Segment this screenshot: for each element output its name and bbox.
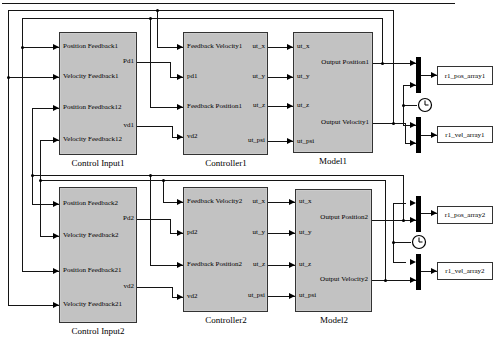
wire[interactable] bbox=[22, 18, 382, 19]
junction-dot bbox=[384, 279, 387, 282]
junction-dot bbox=[149, 174, 152, 177]
arrowhead-icon bbox=[53, 137, 59, 143]
sink-r1-pos-array2[interactable]: r1_pos_array2 bbox=[437, 206, 493, 224]
junction-dot bbox=[31, 174, 34, 177]
wire[interactable] bbox=[373, 123, 405, 124]
arrowhead-icon bbox=[177, 199, 183, 205]
port-label: ut_z bbox=[297, 102, 309, 109]
port-label: vd2 bbox=[187, 133, 198, 140]
junction-dot bbox=[402, 219, 405, 222]
port-label: ut_y bbox=[297, 73, 309, 80]
wire[interactable] bbox=[137, 126, 172, 127]
block-name-control-input2: Control Input2 bbox=[48, 327, 148, 336]
junction-dot bbox=[7, 76, 10, 79]
wire[interactable] bbox=[172, 126, 173, 137]
arrowhead-icon bbox=[53, 268, 59, 274]
arrowhead-icon bbox=[289, 293, 295, 299]
clock-icon[interactable] bbox=[411, 234, 427, 250]
wire[interactable] bbox=[393, 203, 406, 204]
arrowhead-icon bbox=[53, 302, 59, 308]
sink-label: r1_pos_array1 bbox=[445, 72, 485, 80]
clock-icon[interactable] bbox=[417, 97, 433, 113]
port-label: pd2 bbox=[187, 229, 198, 236]
arrowhead-icon bbox=[177, 262, 183, 268]
arrowhead-icon bbox=[53, 74, 59, 80]
wire[interactable] bbox=[32, 175, 403, 176]
port-label: ut_x bbox=[299, 198, 311, 205]
wire[interactable] bbox=[137, 219, 170, 220]
sink-label: r1_vel_array1 bbox=[445, 131, 484, 139]
arrowhead-icon bbox=[410, 140, 416, 146]
wire[interactable] bbox=[8, 305, 59, 306]
wire[interactable] bbox=[8, 10, 9, 305]
wire[interactable] bbox=[40, 180, 385, 181]
wire[interactable] bbox=[393, 10, 394, 123]
arrowhead-icon bbox=[287, 44, 293, 50]
sink-r1-vel-array1[interactable]: r1_vel_array1 bbox=[437, 126, 493, 143]
sink-r1-vel-array2[interactable]: r1_vel_array2 bbox=[437, 262, 493, 280]
wire[interactable] bbox=[403, 175, 404, 220]
wire[interactable] bbox=[157, 10, 158, 47]
wire[interactable] bbox=[137, 62, 170, 63]
sink-label: r1_vel_array2 bbox=[445, 267, 484, 275]
port-label: ut_z bbox=[299, 261, 311, 268]
simulink-diagram-canvas: Control Input1 Controller1 Model1 Contro… bbox=[0, 0, 501, 338]
wire[interactable] bbox=[32, 108, 33, 204]
wire[interactable] bbox=[382, 18, 383, 63]
arrowhead-icon bbox=[410, 200, 416, 206]
wire[interactable] bbox=[385, 180, 386, 280]
wire[interactable] bbox=[40, 140, 41, 236]
arrowhead-icon bbox=[53, 233, 59, 239]
arrowhead-icon bbox=[289, 230, 295, 236]
arrowhead-icon bbox=[177, 74, 183, 80]
wire[interactable] bbox=[163, 180, 164, 202]
wire[interactable] bbox=[170, 62, 171, 77]
block-name-controller2: Controller2 bbox=[176, 316, 276, 325]
port-label: ut_psi bbox=[225, 137, 265, 144]
port-label: Position Feedback1 bbox=[63, 43, 118, 50]
wire[interactable] bbox=[2, 3, 455, 4]
arrowhead-icon bbox=[53, 105, 59, 111]
port-label: Pd2 bbox=[94, 215, 134, 222]
junction-dot bbox=[149, 17, 152, 20]
port-label: Velocity Feedback1 bbox=[63, 73, 118, 80]
block-name-model1: Model1 bbox=[283, 157, 383, 166]
port-label: Output Velocity2 bbox=[293, 276, 368, 283]
port-label: Position Feedback12 bbox=[63, 104, 122, 111]
wire[interactable] bbox=[405, 123, 406, 143]
port-label: Output Position1 bbox=[294, 59, 369, 66]
wire[interactable] bbox=[8, 77, 59, 78]
wire[interactable] bbox=[8, 10, 393, 11]
port-label: ut_y bbox=[225, 73, 265, 80]
arrowhead-icon bbox=[177, 44, 183, 50]
wire[interactable] bbox=[137, 287, 172, 288]
port-label: vd2 bbox=[94, 283, 134, 290]
port-label: ut_z bbox=[225, 102, 265, 109]
mux-block[interactable] bbox=[416, 254, 421, 290]
arrowhead-icon bbox=[431, 132, 437, 138]
sink-r1-pos-array1[interactable]: r1_pos_array1 bbox=[437, 66, 493, 85]
block-model1[interactable] bbox=[293, 32, 373, 153]
wire[interactable] bbox=[393, 203, 394, 262]
port-label: vd1 bbox=[94, 122, 134, 129]
arrowhead-icon bbox=[410, 277, 416, 283]
junction-dot bbox=[162, 179, 165, 182]
junction-dot bbox=[21, 46, 24, 49]
arrowhead-icon bbox=[287, 138, 293, 144]
arrowhead-icon bbox=[287, 74, 293, 80]
wire[interactable] bbox=[393, 242, 411, 243]
junction-dot bbox=[39, 179, 42, 182]
wire[interactable] bbox=[393, 262, 406, 263]
arrowhead-icon bbox=[289, 199, 295, 205]
wire[interactable] bbox=[22, 18, 23, 271]
wire[interactable] bbox=[170, 219, 171, 233]
port-label: pd1 bbox=[187, 73, 198, 80]
wire[interactable] bbox=[150, 175, 151, 265]
wire[interactable] bbox=[403, 105, 417, 106]
port-label: Output Position2 bbox=[293, 214, 368, 221]
block-name-model2: Model2 bbox=[284, 316, 384, 325]
mux-block[interactable] bbox=[416, 196, 421, 232]
wire[interactable] bbox=[172, 287, 173, 297]
junction-dot bbox=[392, 241, 395, 244]
port-label: ut_psi bbox=[225, 292, 265, 299]
